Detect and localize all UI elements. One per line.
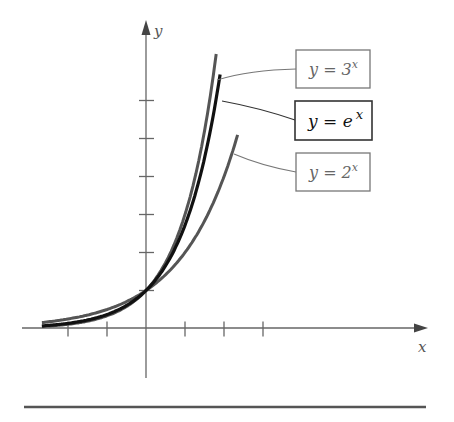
svg-text:y = 2x: y = 2x bbox=[308, 161, 359, 182]
label-2x-exp: x bbox=[352, 161, 359, 174]
label-2x-base: y = 2 bbox=[308, 163, 352, 182]
label-3x-exp: x bbox=[352, 58, 359, 71]
curve-e-to-x bbox=[42, 74, 220, 326]
svg-text:y = 3x: y = 3x bbox=[308, 58, 359, 79]
x-axis-label: x bbox=[418, 338, 427, 356]
label-3x-base: y = 3 bbox=[308, 60, 352, 79]
leader-line-3x bbox=[217, 69, 296, 80]
label-box-2x: y = 2x bbox=[296, 153, 370, 191]
exponential-functions-diagram: x y y = 3x y = ex y = 2x bbox=[0, 0, 454, 422]
y-axis-arrow-icon bbox=[142, 20, 151, 35]
x-axis-arrow-icon bbox=[414, 324, 428, 333]
leader-lines bbox=[217, 69, 296, 172]
label-box-ex: y = ex bbox=[295, 101, 372, 140]
curve-3-to-x bbox=[42, 54, 216, 327]
label-box-3x: y = 3x bbox=[296, 50, 370, 88]
label-ex-exp: x bbox=[356, 107, 364, 122]
x-axis-ticks bbox=[68, 322, 263, 337]
label-ex-base: y = e bbox=[307, 111, 353, 131]
y-axis-label: y bbox=[153, 22, 163, 40]
leader-line-ex bbox=[222, 101, 295, 120]
leader-line-2x bbox=[234, 154, 296, 172]
